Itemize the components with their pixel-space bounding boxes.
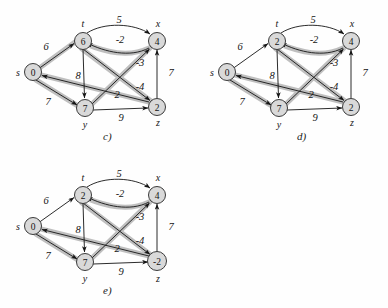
graph-panel-c: 0 6 4 7 2 s t x y z 6 7 5 -2 8 -4 (0, 0, 194, 154)
figure-canvas: 0 6 4 7 2 s t x y z 6 7 5 -2 8 -4 (0, 0, 388, 308)
edge-t-x (87, 179, 150, 188)
edge-t-x (87, 25, 150, 34)
weight-z-s: 2 (114, 243, 120, 254)
weight-s-t: 6 (43, 195, 49, 206)
weight-z-x: 7 (168, 221, 174, 232)
weight-x-t: -2 (116, 188, 125, 199)
node-value-s: 0 (31, 68, 36, 78)
weight-y-z: 9 (118, 112, 124, 123)
edge-t-y (83, 203, 85, 252)
weight-t-z: -4 (330, 81, 339, 92)
node-value-z: 2 (155, 103, 160, 113)
weight-t-x: 5 (116, 168, 121, 179)
graph-svg-d: 0 2 4 7 2 s t x y z 6 7 5 -2 8 -4 -3 (194, 0, 388, 154)
weight-z-x: 7 (362, 67, 368, 78)
panel-caption-c: c) (103, 130, 112, 142)
edge-t-y (83, 49, 85, 98)
edge-t-y (277, 49, 279, 98)
weight-s-y: 7 (239, 96, 245, 107)
weight-s-t: 6 (237, 41, 243, 52)
node-label-s: s (16, 67, 20, 78)
weight-z-s: 2 (114, 89, 120, 100)
node-label-s: s (16, 221, 20, 232)
weight-t-x: 5 (310, 14, 315, 25)
weight-x-t: -2 (116, 34, 125, 45)
edge-y-z (93, 262, 148, 264)
edge-t-x (281, 25, 344, 34)
highlight-halos-e (36, 198, 151, 260)
node-value-t: 6 (81, 37, 86, 47)
node-value-z: -2 (153, 257, 161, 267)
node-label-z: z (155, 273, 160, 284)
weight-t-z: -4 (136, 235, 145, 246)
graph-svg-c: 0 6 4 7 2 s t x y z 6 7 5 -2 8 -4 (0, 0, 194, 154)
weight-t-z: -4 (136, 81, 145, 92)
node-label-z: z (155, 117, 160, 128)
edge-y-z (287, 108, 342, 110)
weight-s-t: 6 (43, 41, 49, 52)
weight-y-x: -3 (136, 57, 145, 68)
panel-caption-d: d) (297, 130, 306, 142)
node-value-x: 4 (155, 37, 160, 47)
weight-t-y: 8 (75, 224, 81, 235)
node-label-x: x (349, 18, 355, 29)
node-label-z: z (349, 117, 354, 128)
node-value-s: 0 (31, 222, 36, 232)
node-value-x: 4 (349, 37, 354, 47)
node-value-x: 4 (155, 191, 160, 201)
node-label-x: x (155, 172, 161, 183)
highlight-halos-d (230, 44, 345, 106)
weight-z-s: 2 (308, 89, 314, 100)
graph-svg-e: 0 2 4 7 -2 s t x y z 6 7 5 -2 8 -4 -3 (0, 154, 194, 308)
weight-s-y: 7 (45, 250, 51, 261)
node-value-t: 2 (275, 37, 280, 47)
weight-z-x: 7 (168, 67, 174, 78)
node-label-t: t (276, 18, 279, 29)
weight-y-x: -3 (330, 57, 339, 68)
weight-y-z: 9 (312, 112, 318, 123)
weight-t-y: 8 (75, 70, 81, 81)
node-label-x: x (155, 18, 161, 29)
node-label-y: y (82, 273, 88, 284)
highlight-halos-c (34, 42, 151, 106)
weight-s-y: 7 (45, 96, 51, 107)
graph-panel-e: 0 2 4 7 -2 s t x y z 6 7 5 -2 8 -4 -3 (0, 154, 194, 308)
node-value-y: 7 (83, 104, 88, 114)
node-value-y: 7 (277, 104, 282, 114)
node-value-s: 0 (225, 68, 230, 78)
node-label-y: y (82, 119, 88, 130)
weight-y-z: 9 (118, 266, 124, 277)
weight-y-x: -3 (136, 211, 145, 222)
node-value-y: 7 (83, 258, 88, 268)
node-value-z: 2 (349, 103, 354, 113)
node-label-t: t (82, 18, 85, 29)
edge-y-z (93, 108, 148, 110)
weight-x-t: -2 (310, 34, 319, 45)
graph-panel-d: 0 2 4 7 2 s t x y z 6 7 5 -2 8 -4 -3 (194, 0, 388, 154)
weight-t-y: 8 (269, 70, 275, 81)
node-label-s: s (210, 67, 214, 78)
panel-caption-e: e) (103, 284, 112, 296)
node-label-y: y (276, 119, 282, 130)
weight-t-x: 5 (116, 14, 121, 25)
node-value-t: 2 (81, 191, 86, 201)
node-label-t: t (82, 172, 85, 183)
